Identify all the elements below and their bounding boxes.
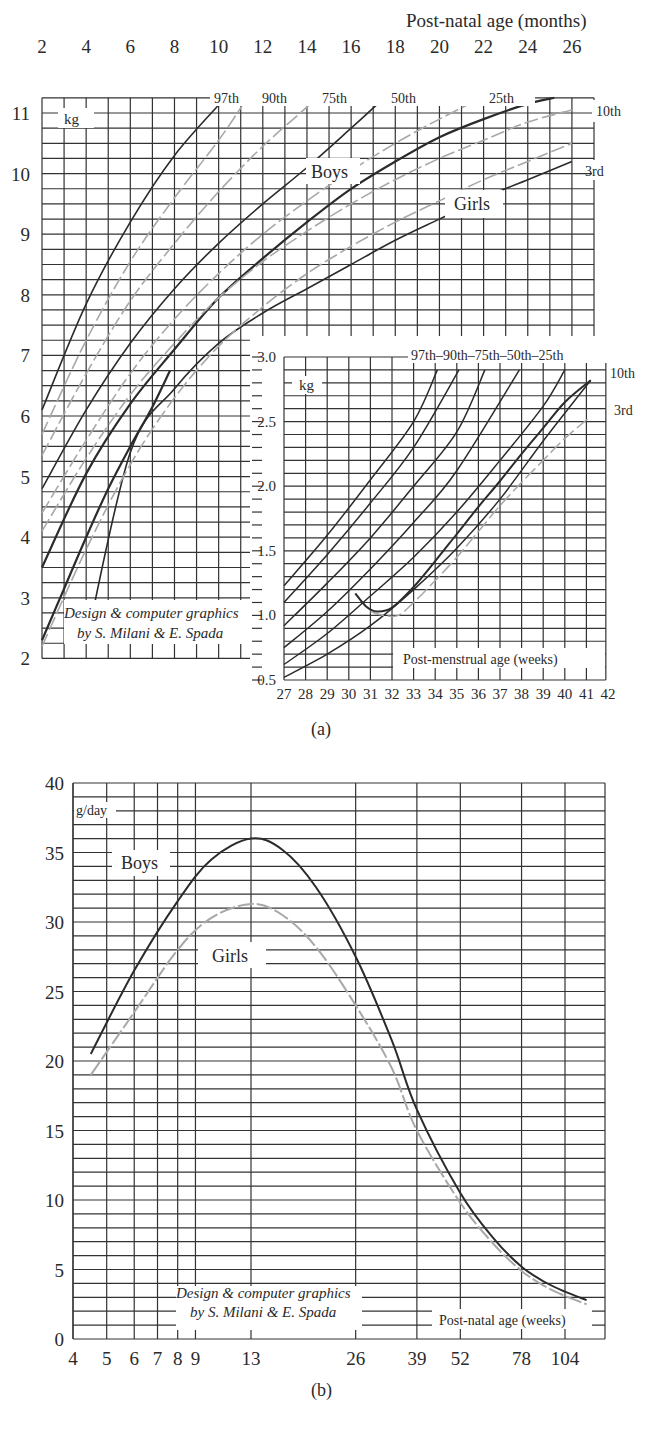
inset-x-tick-label: 30 — [341, 686, 356, 702]
chart-a-boys-label: Boys — [311, 162, 348, 182]
inset-x-tick-label: 27 — [277, 686, 293, 702]
b-y-tick-label: 0 — [55, 1329, 65, 1350]
y-tick-label: 3 — [21, 588, 31, 609]
pct-label-97: 97th — [214, 91, 239, 106]
b-y-tick-label: 35 — [45, 843, 64, 864]
x-tick-label: 14 — [297, 36, 317, 57]
pct-label-50: 50th — [391, 91, 416, 106]
inset-pct-10: 10th — [610, 366, 635, 381]
b-x-tick-label: 104 — [551, 1348, 580, 1369]
chart-b-y-ticks: 0510152025303540 — [45, 773, 64, 1350]
pct-label-bg — [210, 90, 535, 106]
x-tick-label: 10 — [209, 36, 228, 57]
chart-b-boys-label: Boys — [121, 853, 158, 873]
inset-y-tick-label: 2.0 — [257, 478, 276, 494]
inset-xlabel: Post-menstrual age (weeks) — [403, 652, 558, 668]
panel-a-label: (a) — [311, 719, 331, 740]
chart-b-xlabel: Post-natal age (weeks) — [439, 1313, 566, 1329]
y-tick-label: 5 — [21, 467, 31, 488]
inset-x-tick-label: 41 — [579, 686, 594, 702]
x-tick-label: 20 — [430, 36, 449, 57]
pct-label-75: 75th — [322, 91, 347, 106]
chart-a-credit-line2: by S. Milani & E. Spada — [77, 625, 223, 641]
b-x-tick-label: 26 — [346, 1348, 365, 1369]
inset-x-tick-label: 37 — [493, 686, 509, 702]
curve-boys-3rd-early- — [42, 371, 170, 641]
chart-b-girls-label: Girls — [212, 946, 248, 966]
y-tick-label: 4 — [21, 527, 31, 548]
inset-x-tick-label: 28 — [298, 686, 313, 702]
b-x-tick-label: 13 — [241, 1348, 260, 1369]
b-x-tick-label: 6 — [129, 1348, 139, 1369]
b-y-tick-label: 25 — [45, 982, 64, 1003]
chart-b-x-ticks: 4567891326395278104 — [68, 1348, 580, 1369]
x-tick-label: 22 — [474, 36, 493, 57]
y-tick-label: 6 — [21, 406, 31, 427]
chart-a-credit-line1: Design & computer graphics — [63, 605, 239, 621]
inset-pct-3: 3rd — [614, 403, 633, 418]
pct-label-10: 10th — [596, 104, 621, 119]
b-x-tick-label: 9 — [191, 1348, 201, 1369]
inset-y-tick-label: 1.0 — [257, 607, 276, 623]
inset-x-tick-label: 38 — [514, 686, 529, 702]
inset-x-tick-label: 31 — [363, 686, 378, 702]
b-y-tick-label: 10 — [45, 1190, 64, 1211]
chart-b-credit-line2: by S. Milani & E. Spada — [190, 1304, 336, 1320]
chart-a-girls-label: Girls — [454, 194, 490, 214]
y-tick-label: 11 — [12, 103, 30, 124]
inset-x-tick-label: 32 — [385, 686, 400, 702]
b-x-tick-label: 7 — [153, 1348, 163, 1369]
y-tick-label: 9 — [21, 224, 31, 245]
b-x-tick-label: 5 — [102, 1348, 112, 1369]
inset-y-tick-label: 2.5 — [257, 414, 276, 430]
inset-x-tick-label: 33 — [406, 686, 421, 702]
inset-y-tick-label: 1.5 — [257, 543, 276, 559]
chart-a-x-ticks: 2468101214161820222426 — [37, 36, 581, 57]
y-tick-label: 8 — [21, 285, 31, 306]
b-y-tick-label: 20 — [45, 1051, 64, 1072]
x-tick-label: 16 — [342, 36, 361, 57]
x-tick-label: 6 — [126, 36, 136, 57]
inset-y-tick-label: 0.5 — [257, 672, 276, 688]
inset-x-tick-label: 42 — [601, 686, 616, 702]
b-x-tick-label: 4 — [68, 1348, 78, 1369]
b-x-tick-label: 8 — [173, 1348, 183, 1369]
x-tick-label: 4 — [81, 36, 91, 57]
y-tick-label: 10 — [11, 164, 30, 185]
y-tick-label: 2 — [21, 648, 31, 669]
y-tick-label: 7 — [21, 345, 31, 366]
inset-x-tick-label: 29 — [320, 686, 335, 702]
b-y-tick-label: 5 — [55, 1260, 65, 1281]
chart-b-weight-gain: 4567891326395278104 0510152025303540 g/d… — [45, 773, 605, 1369]
pct-label-25: 25th — [489, 91, 514, 106]
pct-label-90: 90th — [262, 91, 287, 106]
inset-x-tick-label: 34 — [428, 686, 444, 702]
x-tick-label: 18 — [386, 36, 405, 57]
b-x-tick-label: 78 — [512, 1348, 531, 1369]
inset-x-tick-label: 35 — [449, 686, 464, 702]
chart-a-unit-label: kg — [64, 111, 80, 127]
b-x-tick-label: 39 — [407, 1348, 426, 1369]
b-y-tick-label: 30 — [45, 912, 64, 933]
b-x-tick-label: 52 — [451, 1348, 470, 1369]
inset-x-tick-label: 40 — [557, 686, 572, 702]
panel-b-label: (b) — [311, 1380, 332, 1401]
pct-label-3: 3rd — [585, 164, 604, 179]
b-y-tick-label: 40 — [45, 773, 64, 794]
x-tick-label: 2 — [37, 36, 47, 57]
chart-a-xlabel: Post-natal age (months) — [406, 10, 586, 32]
inset-unit-label: kg — [299, 377, 315, 393]
growth-charts: 2468101214161820222426 234567891011 Post… — [0, 0, 645, 1443]
x-tick-label: 8 — [170, 36, 180, 57]
inset-x-tick-label: 36 — [471, 686, 487, 702]
chart-b-credit-line1: Design & computer graphics — [175, 1285, 351, 1301]
chart-a-y-ticks: 234567891011 — [11, 103, 31, 669]
x-tick-label: 24 — [518, 36, 538, 57]
chart-a-inset-weight-weeks: 27282930313233343536373839404142 0.51.01… — [250, 336, 645, 716]
inset-y-tick-label: 3.0 — [257, 349, 276, 365]
x-tick-label: 12 — [253, 36, 272, 57]
figure: 2468101214161820222426 234567891011 Post… — [0, 0, 645, 1443]
inset-pct-row: 97th–90th–75th–50th–25th — [411, 348, 563, 363]
chart-b-unit-label: g/day — [76, 803, 107, 818]
x-tick-label: 26 — [562, 36, 581, 57]
